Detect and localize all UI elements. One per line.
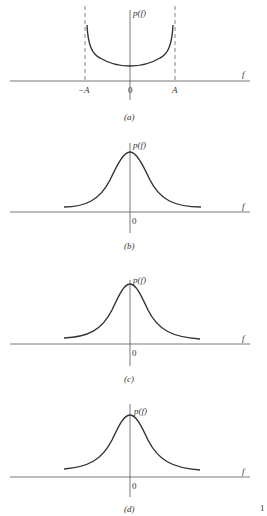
tick-zero: 0	[132, 481, 137, 491]
y-axis-label: p(f)	[133, 406, 147, 416]
panel-c: p(f) f 0 (c)	[10, 275, 250, 384]
tick-pos-a: A	[171, 85, 178, 95]
y-axis-label: p(f)	[132, 275, 146, 285]
y-axis-label: p(f)	[132, 140, 146, 150]
x-axis-label: f	[242, 466, 246, 476]
caption-b: (b)	[124, 241, 135, 251]
tick-zero: 0	[132, 348, 137, 358]
tick-zero: 0	[128, 85, 133, 95]
panel-d: p(f) f 0 (d)	[10, 404, 250, 514]
figure: p(f) f −A 0 A (a) p(f) f 0 (b) p(f) f 0 …	[0, 0, 267, 516]
x-axis-label: f	[242, 201, 246, 211]
caption-d: (d)	[124, 504, 135, 514]
page-mark: 1	[260, 503, 265, 513]
density-curve	[64, 284, 200, 339]
y-axis-label: p(f)	[132, 8, 146, 18]
density-curve	[64, 152, 201, 207]
x-axis-label: f	[242, 69, 246, 79]
caption-c: (c)	[124, 374, 134, 384]
panel-a: p(f) f −A 0 A (a)	[10, 6, 250, 122]
density-curve	[64, 415, 200, 470]
x-axis-label: f	[242, 333, 246, 343]
caption-a: (a)	[124, 112, 135, 122]
tick-neg-a: −A	[78, 85, 90, 95]
tick-zero: 0	[132, 216, 137, 226]
panel-b: p(f) f 0 (b)	[10, 140, 250, 251]
